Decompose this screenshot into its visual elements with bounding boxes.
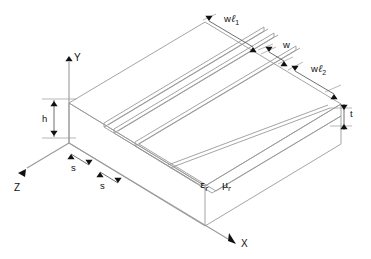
w-extension-line-b [278, 57, 293, 64]
wl1-label: wℓ1 [223, 13, 239, 26]
s2-arrowhead-start [96, 172, 103, 177]
s1-arrowhead-end [85, 160, 92, 165]
s1-label: s [71, 162, 76, 173]
t-arrowhead-bottom [340, 124, 347, 129]
wl2-label: wℓ2 [310, 63, 326, 76]
wl2-extension-line-b [325, 85, 341, 92]
w-dimension-line [269, 52, 284, 61]
mu-r-label: μr [222, 179, 231, 193]
z-axis-arrowhead [18, 169, 26, 177]
s2-label: s [100, 180, 105, 191]
microstrip-diagram-figure: Y Z X wℓ1 w [0, 0, 371, 259]
w-label: w [282, 39, 290, 50]
y-axis-label: Y [74, 52, 81, 63]
s2-arrowhead-end [114, 178, 121, 183]
h-arrowhead-top [50, 101, 57, 106]
z-axis-line [27, 143, 69, 168]
z-axis-label: Z [14, 182, 20, 193]
w-arrowhead-end [280, 61, 287, 66]
y-axis-arrowhead [65, 56, 72, 61]
diagram-canvas: Y Z X wℓ1 w [0, 0, 371, 259]
wl2-arrowhead-start [291, 66, 298, 71]
t-label: t [350, 108, 353, 119]
dimension-s2: s [96, 172, 121, 191]
s1-arrowhead-start [67, 154, 74, 159]
dimension-t: t [330, 104, 353, 130]
h-arrowhead-bottom [50, 131, 57, 136]
x-axis-label: X [241, 238, 248, 249]
t-arrowhead-top [340, 105, 347, 110]
x-axis-arrowhead [228, 233, 236, 244]
dimension-s1: s [67, 154, 92, 173]
wl2-arrowhead-end [330, 94, 337, 99]
dimension-h: h [42, 99, 76, 138]
h-label: h [42, 113, 47, 124]
